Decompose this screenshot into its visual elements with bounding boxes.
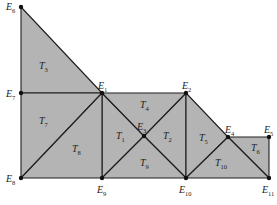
- node-label-subscript: 4: [231, 130, 235, 137]
- node-label-letter: E: [261, 184, 268, 195]
- node-label-letter: E: [224, 124, 231, 135]
- node-dot-e7: [19, 91, 23, 95]
- node-label-subscript: 1: [104, 86, 107, 93]
- node-dot-e3: [142, 134, 146, 138]
- node-label-e8: E8: [5, 173, 15, 186]
- triangle-label-subscript: 2: [169, 136, 172, 143]
- node-dot-e10: [184, 176, 188, 180]
- triangle-label-subscript: 5: [205, 138, 208, 145]
- triangle-label-subscript: 1: [122, 136, 125, 143]
- node-label-e1: E1: [97, 80, 107, 93]
- node-label-letter: E: [181, 80, 188, 91]
- node-dot-e9: [100, 176, 104, 180]
- node-label-letter: E: [263, 124, 270, 135]
- node-label-letter: E: [5, 1, 12, 12]
- node-dot-e8: [19, 176, 23, 180]
- node-label-e9: E9: [96, 184, 106, 197]
- node-label-letter: E: [5, 88, 12, 99]
- node-label-subscript: 8: [12, 179, 15, 186]
- triangle-label-subscript: 3: [45, 66, 48, 73]
- node-label-letter: E: [136, 121, 143, 132]
- triangle-label-subscript: 9: [146, 163, 149, 170]
- triangle-label-subscript: 10: [221, 163, 228, 170]
- node-label-e7: E7: [5, 88, 16, 101]
- node-label-e11: E11: [261, 184, 274, 197]
- node-label-letter: E: [96, 184, 103, 195]
- node-label-e6: E6: [5, 1, 16, 14]
- node-label-subscript: 3: [143, 127, 146, 134]
- node-label-e5: E5: [263, 124, 273, 137]
- triangles-layer: [21, 7, 269, 178]
- node-label-letter: E: [178, 184, 185, 195]
- node-label-subscript: 2: [188, 86, 191, 93]
- node-label-subscript: 9: [103, 190, 106, 197]
- node-label-subscript: 10: [185, 190, 192, 197]
- node-label-e2: E2: [181, 80, 191, 93]
- node-label-e4: E4: [224, 124, 235, 137]
- triangle-mesh-diagram: T1T2T3T4T5T6T7T8T9T10 E1E2E3E4E5E6E7E8E9…: [0, 0, 277, 205]
- node-label-letter: E: [5, 173, 12, 184]
- node-label-subscript: 6: [12, 7, 16, 14]
- node-label-e10: E10: [178, 184, 192, 197]
- node-label-subscript: 11: [268, 190, 274, 197]
- node-dot-e11: [267, 176, 271, 180]
- triangle-label-subscript: 8: [78, 149, 81, 156]
- node-dot-e6: [19, 5, 23, 9]
- node-dot-e4: [226, 135, 230, 139]
- node-label-subscript: 7: [12, 94, 16, 101]
- node-label-subscript: 5: [270, 130, 273, 137]
- node-label-letter: E: [97, 80, 104, 91]
- triangle-t3: [21, 7, 102, 93]
